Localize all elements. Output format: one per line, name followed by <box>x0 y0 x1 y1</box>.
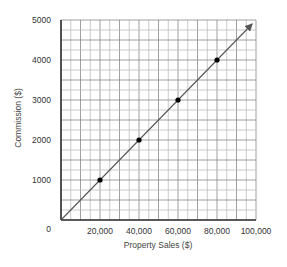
y-tick-label: 3000 <box>32 95 51 105</box>
y-tick-label: 1000 <box>32 175 51 185</box>
x-tick-label: 100,000 <box>241 226 272 236</box>
x-axis-label: Property Sales ($) <box>124 240 193 250</box>
y-tick-labels: 010002000300040005000 <box>32 15 51 234</box>
data-point <box>214 57 219 62</box>
line-chart: 010002000300040005000 20,00040,00060,000… <box>0 0 287 267</box>
data-point <box>136 137 141 142</box>
y-tick-label: 2000 <box>32 135 51 145</box>
x-tick-label: 40,000 <box>126 226 152 236</box>
y-tick-label: 5000 <box>32 15 51 25</box>
x-tick-label: 80,000 <box>204 226 230 236</box>
series-commission <box>61 24 252 220</box>
y-tick-label: 0 <box>46 224 51 234</box>
x-tick-label: 60,000 <box>165 226 191 236</box>
x-tick-label: 20,000 <box>87 226 113 236</box>
data-point <box>97 177 102 182</box>
y-tick-label: 4000 <box>32 55 51 65</box>
trend-line <box>61 24 252 220</box>
x-tick-labels: 20,00040,00060,00080,000100,000 <box>87 226 272 236</box>
y-axis-label: Commission ($) <box>13 88 23 148</box>
data-point <box>175 97 180 102</box>
